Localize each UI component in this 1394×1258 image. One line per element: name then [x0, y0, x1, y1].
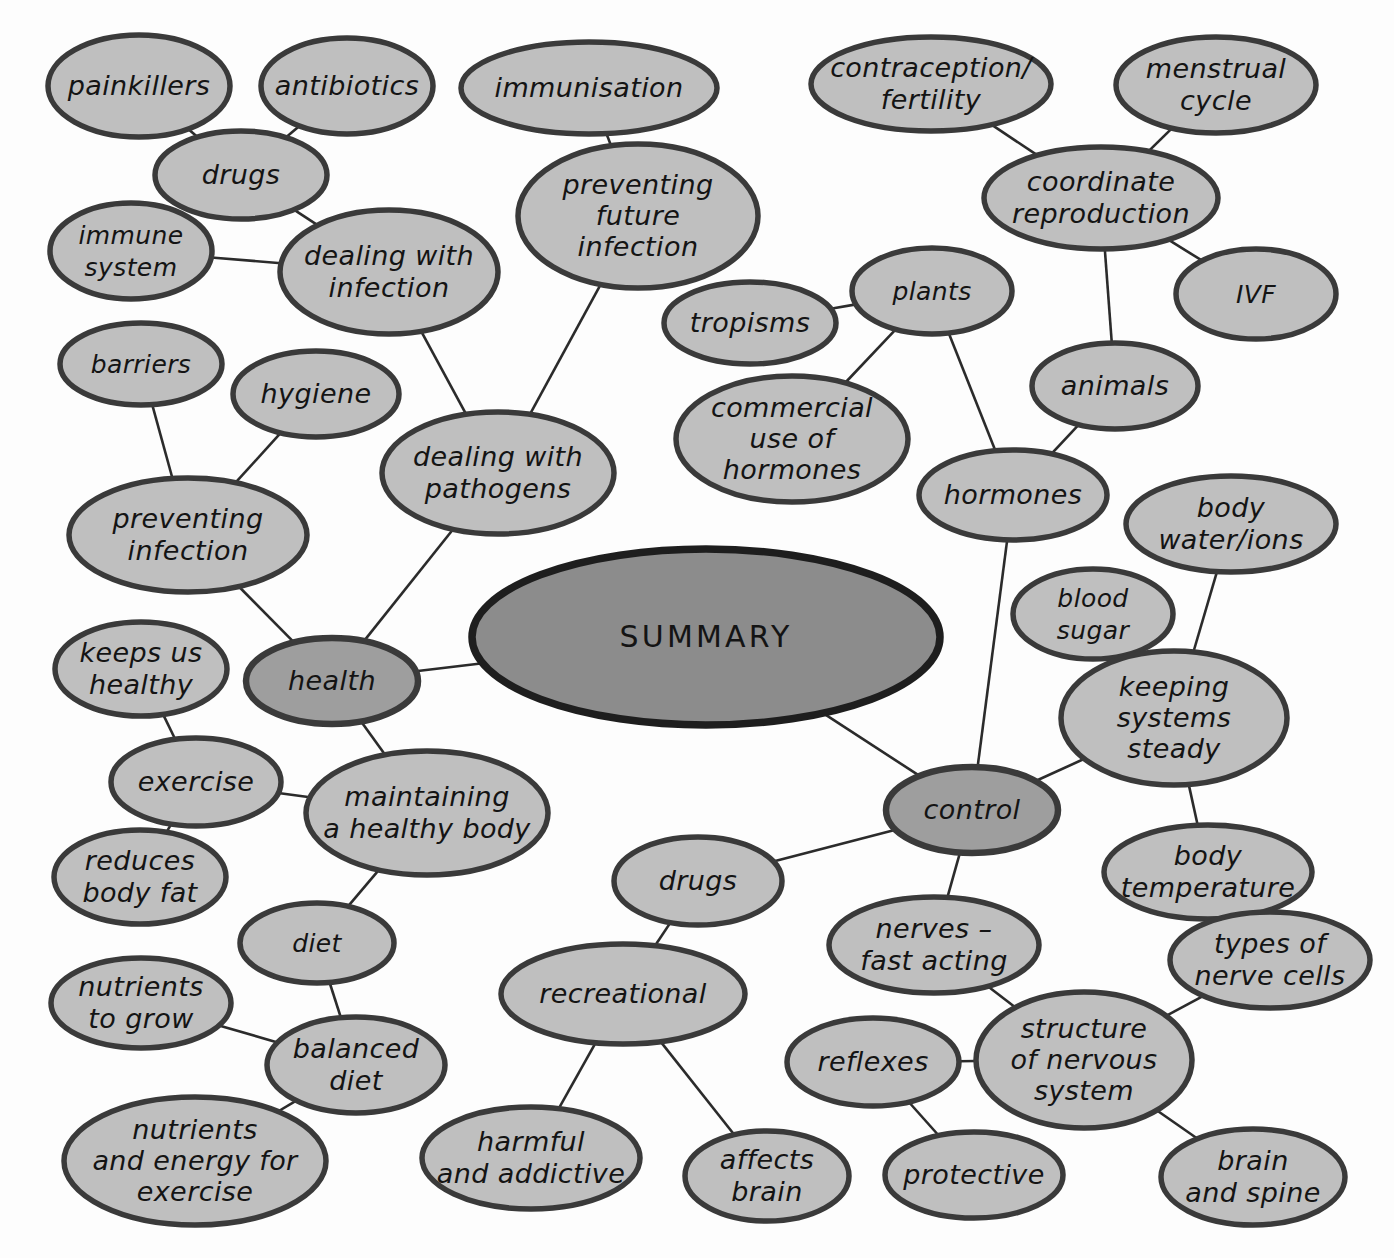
node-previnfect[interactable]: preventinginfection: [69, 478, 307, 592]
node-nutenergy[interactable]: nutrientsand energy forexercise: [64, 1097, 326, 1225]
node-prevfuture[interactable]: preventingfutureinfection: [518, 144, 758, 288]
node-animals[interactable]: animals: [1032, 343, 1198, 429]
node-label-keepsteady: keepingsystemssteady: [1117, 671, 1231, 764]
edge-nervesfast-to-structnerv: [988, 986, 1016, 1007]
node-brainspine[interactable]: brainand spine: [1161, 1129, 1345, 1225]
node-plants[interactable]: plants: [852, 248, 1012, 334]
edge-maintain-to-diet: [348, 870, 379, 907]
edge-animals-to-hormones: [1051, 425, 1078, 454]
node-maintain[interactable]: maintaininga healthy body: [306, 751, 548, 875]
node-contracept[interactable]: contraception/fertility: [811, 37, 1051, 131]
edge-prevfuture-to-dealpath: [530, 284, 601, 414]
node-barriers[interactable]: barriers: [60, 323, 222, 405]
edge-nutgrow-to-baldiet: [219, 1026, 278, 1043]
nodes-layer: SUMMARYhealthcontrolpainkillersantibioti…: [48, 35, 1370, 1225]
node-label-dealinfect: dealing withinfection: [304, 240, 474, 303]
node-recreational[interactable]: recreational: [501, 944, 745, 1044]
node-keepsteady[interactable]: keepingsystemssteady: [1061, 651, 1287, 785]
edge-structnerv-to-brainspine: [1157, 1110, 1198, 1138]
node-diet[interactable]: diet: [240, 903, 394, 983]
node-label-painkillers: painkillers: [67, 70, 211, 101]
node-bodywater[interactable]: bodywater/ions: [1126, 476, 1336, 572]
node-label-barriers: barriers: [91, 350, 192, 379]
node-immunisation[interactable]: immunisation: [461, 42, 717, 134]
node-label-typesnerve: types ofnerve cells: [1195, 928, 1346, 991]
node-bodytemp[interactable]: bodytemperature: [1104, 825, 1312, 919]
node-structnerv[interactable]: structureof nervoussystem: [976, 992, 1192, 1128]
node-painkillers[interactable]: painkillers: [48, 35, 230, 137]
edge-previnfect-to-health: [239, 587, 294, 643]
node-exercise[interactable]: exercise: [111, 738, 281, 826]
edge-barriers-to-previnfect: [152, 405, 172, 479]
node-label-hygiene: hygiene: [261, 378, 372, 409]
node-drugs_bot[interactable]: drugs: [614, 837, 782, 925]
node-label-immunisation: immunisation: [495, 72, 684, 103]
node-menstrual[interactable]: menstrualcycle: [1116, 37, 1316, 133]
node-label-maintain: maintaininga healthy body: [323, 781, 531, 844]
edge-coordrepro-to-animals: [1105, 249, 1112, 343]
node-bloodsugar[interactable]: bloodsugar: [1013, 569, 1173, 659]
edge-coordrepro-to-ivf: [1168, 240, 1202, 261]
mind-map-svg: SUMMARYhealthcontrolpainkillersantibioti…: [0, 0, 1394, 1258]
edge-recreational-to-harmful: [559, 1043, 596, 1109]
node-label-recreational: recreational: [539, 978, 706, 1009]
edge-reflexes-to-protective: [909, 1102, 939, 1136]
node-summary[interactable]: SUMMARY: [472, 549, 940, 725]
node-dealinfect[interactable]: dealing withinfection: [280, 210, 498, 334]
node-nutgrow[interactable]: nutrientsto grow: [51, 958, 231, 1048]
edge-control-to-nervesfast: [947, 853, 960, 898]
edge-keepshealthy-to-exercise: [163, 714, 175, 739]
edge-exercise-to-maintain: [278, 793, 310, 797]
node-typesnerve[interactable]: types ofnerve cells: [1170, 912, 1370, 1008]
node-label-protective: protective: [902, 1159, 1044, 1190]
node-affects[interactable]: affectsbrain: [685, 1131, 849, 1221]
node-hormones[interactable]: hormones: [919, 450, 1107, 540]
node-ivf[interactable]: IVF: [1176, 249, 1336, 339]
node-baldiet[interactable]: balanceddiet: [267, 1017, 445, 1113]
node-coordrepro[interactable]: coordinatereproduction: [984, 147, 1218, 249]
edge-health-to-maintain: [361, 722, 385, 755]
node-immune[interactable]: immunesystem: [50, 203, 212, 299]
edge-keepsteady-to-bodytemp: [1189, 784, 1198, 825]
node-nervesfast[interactable]: nerves –fast acting: [829, 897, 1039, 993]
node-antibiotics[interactable]: antibiotics: [261, 38, 433, 134]
node-dealpath[interactable]: dealing withpathogens: [382, 412, 614, 534]
node-keepshealthy[interactable]: keeps ushealthy: [55, 622, 227, 716]
edge-recreational-to-affects: [661, 1042, 735, 1135]
node-label-animals: animals: [1061, 370, 1169, 401]
edge-plants-to-hormones: [949, 333, 996, 451]
edge-hygiene-to-previnfect: [236, 433, 281, 483]
edge-drugs_top-to-dealinfect: [294, 210, 318, 226]
node-label-control: control: [924, 794, 1021, 825]
node-label-reducesfat: reducesbody fat: [82, 845, 198, 908]
node-reflexes[interactable]: reflexes: [787, 1018, 959, 1106]
node-label-health: health: [288, 665, 376, 696]
node-protective[interactable]: protective: [885, 1132, 1063, 1218]
node-tropisms[interactable]: tropisms: [664, 282, 836, 364]
edge-menstrual-to-coordrepro: [1148, 128, 1172, 151]
edge-diet-to-baldiet: [330, 983, 341, 1018]
node-drugs_top[interactable]: drugs: [155, 131, 327, 219]
node-reducesfat[interactable]: reducesbody fat: [54, 830, 226, 924]
node-label-dealpath: dealing withpathogens: [413, 441, 583, 504]
node-hygiene[interactable]: hygiene: [233, 351, 399, 437]
edge-plants-to-commuse: [845, 329, 896, 383]
mind-map-canvas: SUMMARYhealthcontrolpainkillersantibioti…: [0, 0, 1394, 1258]
node-label-ivf: IVF: [1236, 280, 1276, 309]
node-label-plants: plants: [891, 277, 971, 306]
node-commuse[interactable]: commercialuse ofhormones: [676, 376, 908, 502]
node-label-previnfect: preventinginfection: [112, 503, 264, 566]
node-harmful[interactable]: harmfuland addictive: [422, 1107, 640, 1209]
node-health[interactable]: health: [246, 638, 418, 724]
node-label-nutgrow: nutrientsto grow: [78, 971, 203, 1034]
node-control[interactable]: control: [886, 767, 1058, 853]
edge-summary-to-control: [823, 713, 920, 776]
edge-typesnerve-to-structnerv: [1166, 996, 1203, 1016]
node-label-exercise: exercise: [138, 766, 255, 797]
node-label-summary: SUMMARY: [620, 619, 793, 654]
edge-bodywater-to-keepsteady: [1193, 572, 1217, 652]
node-label-diet: diet: [292, 929, 342, 958]
edge-dealpath-to-health: [364, 529, 453, 641]
edge-health-to-summary: [416, 663, 483, 671]
edge-contracept-to-coordrepro: [992, 125, 1038, 156]
